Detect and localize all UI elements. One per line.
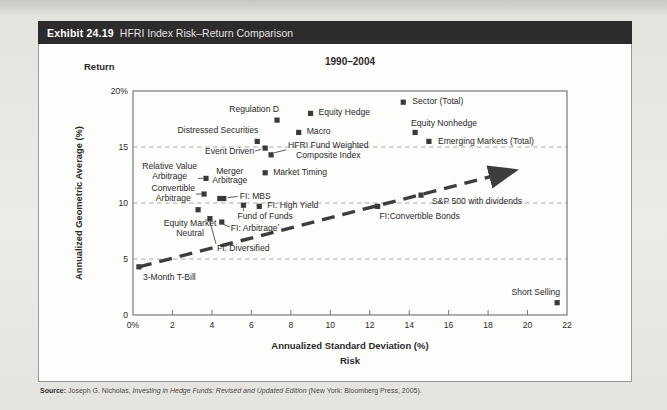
x-tick-8: 8 xyxy=(288,320,293,330)
y-tick-20: 20% xyxy=(39,86,128,96)
x-tick-22: 22 xyxy=(562,320,572,330)
source-text-after: (New York: Bloomberg Press, 2005). xyxy=(307,387,422,394)
fi-arbitrage-marker xyxy=(219,219,224,224)
event-driven-label: Event Driven xyxy=(205,147,254,157)
source-line: Source: Joseph G. Nicholas, Investing in… xyxy=(40,387,620,394)
x-tick-14: 14 xyxy=(404,320,414,330)
equity-hedge-label: Equity Hedge xyxy=(319,108,371,118)
macro-marker xyxy=(296,130,301,135)
fi-high-yield-marker xyxy=(257,204,262,209)
merger-arbitrage-label: Merger Arbitrage xyxy=(212,167,247,187)
figure-box: 1990–2004 Return Annualized Geometric Av… xyxy=(38,44,632,382)
equity-nonhedge-label: Equity Nonhedge xyxy=(411,120,477,130)
distressed-securities-marker xyxy=(255,139,260,144)
exhibit-header-bar: Exhibit 24.19 HFRI Index Risk–Return Com… xyxy=(38,21,632,44)
y-tick-5: 5 xyxy=(39,254,128,264)
3-month-t-bill-label: 3-Month T-Bill xyxy=(143,273,196,283)
x-tick-18: 18 xyxy=(483,320,493,330)
y-tick-10: 10 xyxy=(39,198,128,208)
fi-mbs-marker xyxy=(221,196,226,201)
x-tick-10: 10 xyxy=(325,320,335,330)
fi-arbitrage-label: FI: Arbitrageʼ xyxy=(231,224,280,234)
sector-total-marker xyxy=(401,100,406,105)
equity-market-neutral-label: Equity Market Neutral xyxy=(164,219,217,239)
sp500-with-dividends-marker xyxy=(418,193,423,198)
convertible-arbitrage-label: Convertible Arbitrage xyxy=(152,184,195,204)
fi-high-yield-label: FI: High Yield xyxy=(267,201,318,211)
relative-value-arbitrage-marker xyxy=(203,176,208,181)
fund-of-funds-label: Fund of Funds xyxy=(237,212,292,222)
regulation-d-marker xyxy=(274,118,279,123)
exhibit-number: Exhibit 24.19 xyxy=(47,27,114,39)
equity-hedge-marker xyxy=(308,111,313,116)
sp500-with-dividends-label: S&P 500 with dividends xyxy=(432,197,522,207)
hfri-fund-weighted-composite-index-marker xyxy=(268,152,273,157)
fi-mbs-label: FI: MBS xyxy=(240,192,271,202)
fi-diversified-label: FI: Diversified xyxy=(217,244,270,254)
x-tick-6: 6 xyxy=(249,320,254,330)
x-tick-16: 16 xyxy=(444,320,454,330)
x-axis-title: Annualized Standard Deviation (%) xyxy=(271,340,428,351)
sector-total-label: Sector (Total) xyxy=(412,97,463,107)
x-tick-4: 4 xyxy=(210,320,215,330)
fund-of-funds-marker xyxy=(241,203,246,208)
source-label: Source: xyxy=(40,387,66,394)
hfri-fund-weighted-composite-index-label: HFRI Fund Weighted Composite Index xyxy=(288,141,369,161)
market-timing-label: Market Timing xyxy=(273,168,327,178)
market-timing-marker xyxy=(263,170,268,175)
fi-convertible-bonds-label: FI:Convertible Bonds xyxy=(380,212,460,222)
equity-market-neutral-marker xyxy=(196,207,201,212)
x-tick-20: 20 xyxy=(523,320,533,330)
emerging-markets-total-marker xyxy=(426,139,431,144)
source-text-before: Joseph G. Nicholas, xyxy=(66,387,133,394)
equity-nonhedge-marker xyxy=(413,130,418,135)
x-tick-0: 0% xyxy=(127,320,139,330)
3-month-t-bill-marker xyxy=(136,264,141,269)
relative-value-arbitrage-label: Relative Value Arbitrage xyxy=(142,162,197,182)
source-book-title: Investing in Hedge Funds: Revised and Up… xyxy=(133,387,307,394)
short-selling-label: Short Selling xyxy=(511,288,560,298)
macro-label: Macro xyxy=(307,128,331,138)
x-axis-sub-label: Risk xyxy=(340,355,360,366)
y-tick-0: 0 xyxy=(39,310,128,320)
fi-convertible-bonds-marker xyxy=(375,204,380,209)
plot-area: 0%24681012141618202205101520%3-Month T-B… xyxy=(39,44,631,381)
event-driven-marker xyxy=(263,146,268,151)
y-tick-15: 15 xyxy=(39,142,128,152)
exhibit-title: HFRI Index Risk–Return Comparison xyxy=(120,27,293,39)
convertible-arbitrage-marker xyxy=(201,191,206,196)
emerging-markets-total-label: Emerging Markets (Total) xyxy=(438,137,534,147)
x-tick-2: 2 xyxy=(170,320,175,330)
short-selling-marker xyxy=(555,300,560,305)
distressed-securities-label: Distressed Securities xyxy=(178,127,259,137)
x-tick-12: 12 xyxy=(365,320,375,330)
regulation-d-label: Regulation D xyxy=(229,105,279,115)
